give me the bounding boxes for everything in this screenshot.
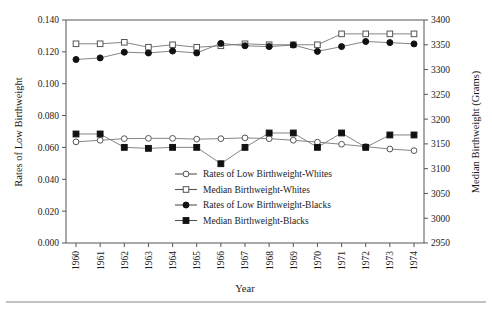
marker-filled-circle — [218, 40, 224, 46]
right-tick-label: 3200 — [431, 115, 450, 125]
x-axis-tick-labels: 1960196119621963196419651966196719681969… — [71, 251, 419, 270]
marker-open-square — [315, 42, 321, 48]
marker-filled-square — [183, 218, 189, 224]
right-axis-ticks — [424, 20, 428, 243]
left-tick-label: 0.000 — [38, 238, 60, 248]
right-tick-label: 3400 — [431, 15, 450, 25]
marker-filled-circle — [266, 44, 272, 50]
legend-item: Rates of Low Birthweight-Blacks — [175, 200, 331, 210]
x-tick-label: 1960 — [71, 251, 81, 270]
legend-label: Median Birthweight-Blacks — [203, 216, 309, 226]
left-axis-title: Rates of Low Birthweight — [13, 77, 24, 186]
right-tick-label: 3250 — [431, 90, 450, 100]
left-tick-label: 0.100 — [38, 79, 60, 89]
series-layer — [73, 31, 417, 167]
marker-open-circle — [121, 136, 127, 142]
marker-filled-circle — [145, 50, 151, 56]
marker-filled-square — [146, 145, 152, 151]
left-axis-ticks — [62, 20, 66, 243]
marker-filled-square — [121, 144, 127, 150]
x-tick-label: 1966 — [216, 251, 226, 270]
marker-filled-square — [242, 144, 248, 150]
marker-filled-square — [194, 144, 200, 150]
marker-filled-circle — [387, 40, 393, 46]
marker-filled-circle — [339, 44, 345, 50]
x-tick-label: 1969 — [289, 251, 299, 270]
legend-label: Median Birthweight-Whites — [203, 185, 310, 195]
birthweight-line-chart: 0.0000.0200.0400.0600.0800.1000.1200.140… — [0, 0, 492, 309]
left-tick-label: 0.040 — [38, 175, 60, 185]
marker-open-square — [387, 31, 393, 37]
x-tick-label: 1972 — [361, 251, 371, 270]
left-axis-tick-labels: 0.0000.0200.0400.0600.0800.1000.1200.140 — [38, 15, 60, 248]
x-tick-label: 1963 — [144, 251, 154, 270]
legend-item: Median Birthweight-Whites — [175, 185, 310, 195]
marker-open-circle — [411, 148, 417, 154]
marker-filled-square — [266, 130, 272, 136]
marker-open-circle — [170, 135, 176, 141]
right-tick-label: 3050 — [431, 189, 450, 199]
marker-filled-square — [290, 130, 296, 136]
marker-open-square — [146, 44, 152, 50]
marker-filled-square — [97, 131, 103, 137]
x-tick-label: 1974 — [409, 251, 419, 270]
marker-open-square — [121, 40, 127, 46]
marker-open-circle — [146, 135, 152, 141]
x-tick-label: 1971 — [337, 251, 347, 270]
marker-filled-circle — [242, 43, 248, 49]
x-tick-label: 1964 — [168, 251, 178, 270]
x-tick-label: 1968 — [265, 251, 275, 270]
marker-filled-circle — [121, 49, 127, 55]
marker-filled-circle — [183, 202, 189, 208]
marker-open-square — [170, 42, 176, 48]
x-tick-label: 1970 — [313, 251, 323, 270]
marker-open-circle — [183, 171, 189, 177]
legend-label: Rates of Low Birthweight-Blacks — [203, 200, 331, 210]
marker-open-square — [363, 31, 369, 37]
marker-open-circle — [97, 137, 103, 143]
marker-filled-circle — [314, 48, 320, 54]
right-tick-label: 3150 — [431, 139, 450, 149]
x-axis-title: Year — [235, 283, 255, 294]
marker-filled-square — [315, 144, 321, 150]
marker-open-circle — [194, 136, 200, 142]
marker-open-square — [194, 44, 200, 50]
right-tick-label: 2950 — [431, 238, 450, 248]
marker-filled-circle — [97, 55, 103, 61]
marker-filled-square — [73, 131, 79, 137]
left-tick-label: 0.060 — [38, 143, 60, 153]
right-tick-label: 3100 — [431, 164, 450, 174]
chart-figure: 0.0000.0200.0400.0600.0800.1000.1200.140… — [0, 0, 492, 309]
left-tick-label: 0.120 — [38, 47, 60, 57]
right-axis-title: Median Birthweight (Grams) — [470, 70, 482, 193]
marker-open-circle — [73, 139, 79, 145]
marker-filled-circle — [411, 41, 417, 47]
left-tick-label: 0.080 — [38, 111, 60, 121]
marker-filled-square — [387, 132, 393, 138]
right-tick-label: 3000 — [431, 214, 450, 224]
marker-filled-square — [339, 130, 345, 136]
marker-open-circle — [266, 136, 272, 142]
left-tick-label: 0.020 — [38, 207, 60, 217]
marker-filled-square — [218, 161, 224, 167]
marker-filled-circle — [73, 57, 79, 63]
marker-filled-circle — [290, 42, 296, 48]
marker-filled-circle — [363, 39, 369, 45]
x-tick-label: 1961 — [96, 251, 106, 270]
marker-open-square — [411, 31, 417, 37]
marker-open-circle — [339, 141, 345, 147]
marker-filled-square — [363, 144, 369, 150]
marker-open-circle — [218, 136, 224, 142]
legend-item: Median Birthweight-Blacks — [175, 216, 309, 226]
marker-filled-square — [411, 132, 417, 138]
legend-label: Rates of Low Birthweight-Whites — [203, 169, 332, 179]
x-tick-label: 1973 — [385, 251, 395, 270]
marker-filled-circle — [170, 48, 176, 54]
left-tick-label: 0.140 — [38, 15, 60, 25]
marker-filled-circle — [194, 50, 200, 56]
marker-open-square — [97, 41, 103, 47]
x-tick-label: 1962 — [120, 251, 130, 270]
x-tick-label: 1967 — [240, 251, 250, 270]
marker-open-square — [339, 31, 345, 37]
right-axis-tick-labels: 2950300030503100315032003250330033503400 — [431, 15, 450, 248]
